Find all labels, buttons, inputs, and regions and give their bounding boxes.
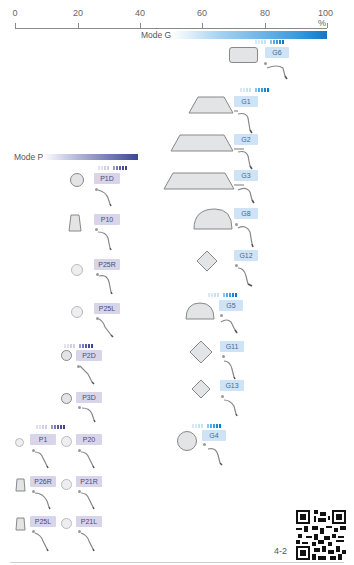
tip-label-p10: P10 — [94, 214, 120, 225]
tip-shape-half-circle — [193, 208, 233, 234]
tip-shape-trapezoid-tall — [68, 214, 82, 236]
tip-label-g4: G4 — [202, 430, 226, 441]
tip-icon — [265, 60, 291, 88]
power-indicator — [192, 424, 221, 428]
tip-label-g8: G8 — [234, 208, 258, 219]
tip-icon — [96, 228, 122, 256]
tip-shape-circle — [70, 173, 84, 187]
mode-g-gradient-bar — [172, 31, 327, 39]
tip-icon — [222, 398, 248, 426]
tip-label-p25r: P25R — [94, 259, 120, 270]
power-indicator — [208, 293, 237, 297]
tip-shape-half-circle — [185, 302, 215, 324]
tip-shape-circle-tiny — [15, 438, 24, 447]
tip-icon — [79, 491, 105, 519]
tick-label-40: 40 — [135, 8, 145, 18]
tip-label-p25l-bottom: P25L — [30, 516, 56, 527]
tip-label-g3: G3 — [234, 170, 258, 181]
axis-tick — [15, 23, 16, 28]
tick-label-100: 100 % — [318, 8, 342, 28]
tick-label-80: 80 — [260, 8, 270, 18]
tip-icon — [219, 316, 245, 344]
tip-icon — [206, 445, 232, 473]
axis-tick — [78, 23, 79, 28]
tip-label-g6: G6 — [265, 47, 289, 58]
tip-shape-trapezoid-tall — [15, 478, 26, 496]
tip-label-g11: G11 — [220, 341, 244, 352]
tip-label-p3d: P3D — [76, 392, 102, 403]
footer-divider — [10, 562, 344, 563]
tip-shape-circle-small — [71, 306, 83, 318]
tip-shape-circle-small — [61, 350, 72, 361]
tip-shape-trapezoid — [188, 96, 234, 118]
axis-line — [15, 28, 327, 29]
tip-icon — [33, 531, 59, 559]
mode-p-gradient-bar — [43, 154, 138, 160]
tip-label-g12: G12 — [234, 250, 258, 261]
tip-icon — [78, 364, 104, 392]
tip-icon — [33, 450, 59, 478]
power-indicator — [36, 425, 65, 429]
tip-icon — [97, 317, 123, 345]
tip-icon — [33, 491, 59, 519]
tip-shape-diamond — [196, 250, 218, 276]
tip-icon — [79, 450, 105, 478]
tip-shape-rounded-rect — [229, 47, 258, 63]
tip-label-p1: P1 — [30, 434, 56, 445]
tip-icon — [97, 274, 123, 302]
axis-tick — [202, 23, 203, 28]
power-indicator — [64, 344, 93, 348]
tip-label-p26r: P26R — [30, 476, 56, 487]
axis-tick — [265, 23, 266, 28]
tip-shape-trapezoid-tall — [15, 517, 26, 535]
tip-shape-circle-small — [61, 393, 72, 404]
axis-tick — [327, 23, 328, 28]
tip-shape-circle-small — [61, 479, 72, 490]
tip-shape-diamond — [191, 379, 211, 403]
tip-label-p2d: P2D — [76, 350, 102, 361]
tip-shape-trapezoid-wide — [163, 172, 235, 194]
tip-shape-circle-small — [61, 518, 72, 529]
tip-shape-trapezoid-wide — [170, 134, 234, 156]
mode-g-label: Mode G — [141, 30, 171, 40]
page-number: 4-2 — [274, 546, 287, 556]
qr-code-icon — [296, 510, 346, 564]
tip-icon — [236, 264, 262, 292]
power-indicator — [240, 88, 269, 92]
tip-shape-circle — [177, 431, 197, 451]
axis-tick — [140, 23, 141, 28]
tip-label-g5: G5 — [219, 300, 243, 311]
tip-icon — [80, 406, 106, 434]
tip-label-g13: G13 — [220, 380, 244, 391]
tip-shape-diamond — [189, 340, 213, 368]
power-indicator — [98, 166, 127, 170]
tip-shape-circle-small — [61, 436, 72, 447]
tip-label-p21r: P21R — [76, 476, 102, 487]
tip-label-g1: G1 — [234, 96, 258, 107]
tip-label-p20: P20 — [76, 434, 102, 445]
tick-label-0: 0 — [12, 8, 17, 18]
tip-icon — [236, 222, 262, 250]
tip-shape-circle-small — [71, 264, 83, 276]
tick-label-20: 20 — [73, 8, 83, 18]
tip-icon — [96, 186, 122, 214]
power-indicator — [255, 40, 284, 44]
tip-label-p1d: P1D — [94, 173, 120, 184]
tip-label-g2: G2 — [234, 134, 258, 145]
tip-icon — [79, 531, 105, 559]
tick-label-60: 60 — [197, 8, 207, 18]
mode-p-label: Mode P — [14, 152, 43, 162]
tip-label-p25l: P25L — [94, 303, 120, 314]
tip-label-p21l: P21L — [76, 516, 102, 527]
